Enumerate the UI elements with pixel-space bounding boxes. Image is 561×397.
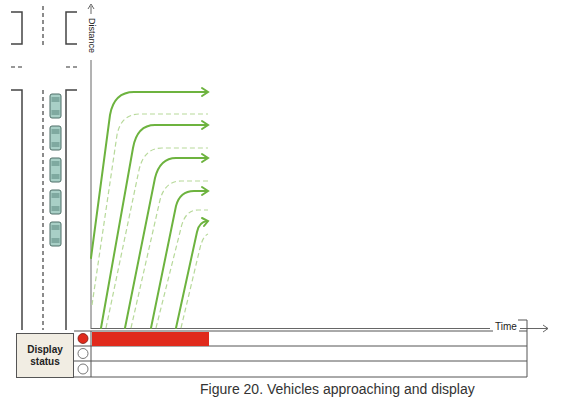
distance-axis-label: Distance bbox=[87, 18, 97, 53]
car-icon bbox=[50, 126, 61, 150]
display-status-label: Display status bbox=[16, 333, 74, 378]
dashed-trajectories bbox=[92, 114, 208, 328]
road-border-left bbox=[11, 90, 22, 330]
figure-caption: Figure 20. Vehicles approaching and disp… bbox=[200, 381, 475, 397]
solid-trajectories bbox=[91, 88, 208, 328]
car-icon bbox=[50, 190, 61, 214]
red-phase-bar bbox=[92, 332, 209, 346]
car-icon bbox=[50, 94, 61, 118]
display-status-label-line2: status bbox=[30, 356, 59, 368]
vehicle-trajectory bbox=[176, 221, 207, 328]
car-icon bbox=[50, 222, 61, 246]
dashed-trajectory bbox=[131, 181, 208, 328]
road-border-right bbox=[66, 90, 77, 330]
time-axis-label: Time bbox=[493, 321, 519, 332]
vehicle-trajectory bbox=[91, 92, 207, 258]
vehicle-trajectory bbox=[151, 191, 207, 328]
green-light-off-icon bbox=[78, 364, 88, 374]
axes bbox=[88, 4, 548, 332]
road-corner-top-left bbox=[11, 12, 22, 44]
car-icon bbox=[50, 158, 61, 182]
display-status-label-line1: Display bbox=[27, 344, 63, 356]
road-diagram bbox=[11, 6, 77, 330]
red-light-icon bbox=[78, 334, 88, 344]
road-corner-top-right bbox=[66, 12, 77, 44]
queued-cars bbox=[50, 94, 61, 246]
amber-light-off-icon bbox=[78, 349, 88, 359]
